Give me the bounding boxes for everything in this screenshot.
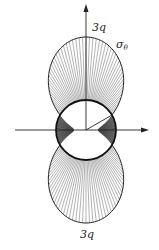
bottom-value-label: 3q	[80, 228, 94, 241]
stress-symbol-label: σθ	[116, 38, 129, 52]
up-arrow-icon	[84, 4, 89, 12]
stress-diagram: 3q σθ 3q	[0, 0, 159, 250]
right-arrow-icon	[141, 128, 149, 133]
top-value-label: 3q	[92, 21, 106, 34]
